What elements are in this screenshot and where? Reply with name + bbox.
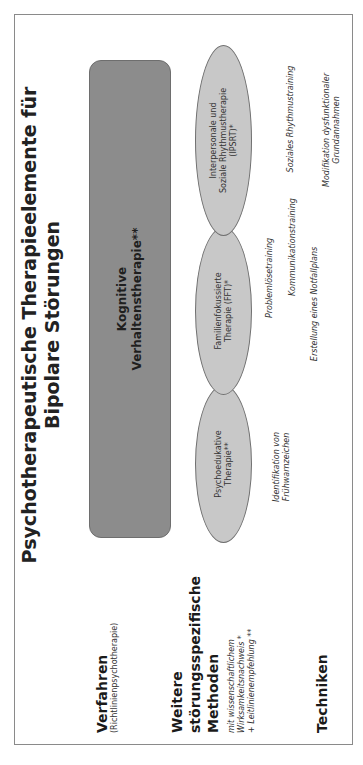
identifikation-line-2: Frühwarnzeichen (282, 432, 292, 502)
method-ellipse-fft: Familienfokussierte Therapie (FFT)* (195, 227, 252, 395)
row-sublabel-methoden: mit wissenschaftlichem Wirksamkeitsnachw… (227, 533, 257, 733)
kvt-label: Kognitive Verhaltenstherapie** (115, 228, 145, 371)
fft-line-2: Therapie (FFT)* (224, 272, 234, 349)
ipsrt-line-1: Interpersonale und (209, 88, 219, 193)
problemloese-line-1: Problemlösetraining (265, 238, 275, 318)
fft-line-1: Familienfokussierte (214, 272, 224, 349)
method-ellipse-psychoedukative: Psychoedukative Therapie** (195, 385, 252, 543)
technique-kommunikationstraining: Kommunikationstraining (288, 198, 298, 296)
kvt-line-1: Kognitive (115, 228, 130, 371)
modifikation-line-1: Modifikation dysfunktionaler (322, 73, 332, 187)
ipsrt-label: Interpersonale und Soziale Rhythmusthera… (209, 88, 239, 193)
technique-soziales-rhythmustraining: Soziales Rhythmustraining (286, 66, 296, 173)
diagram-title: Psychotherapeutische Therapieelemente fü… (18, 15, 64, 635)
fft-label: Familienfokussierte Therapie (FFT)* (214, 272, 234, 349)
notfallplan-line-1: Erstellung eines Notfallplans (310, 247, 320, 361)
ipsrt-line-2: Soziale Rhythmustherapie (219, 88, 229, 193)
technique-problemloesetraining: Problemlösetraining (265, 238, 275, 318)
methoden-line-1: Weitere (168, 533, 186, 733)
psychoedukative-label: Psychoedukative Therapie** (214, 430, 234, 497)
title-line-2: Bipolare Störungen (41, 15, 64, 635)
row-sublabel-verfahren: (Richtlinienpsychotherapie) (110, 623, 120, 733)
row-label-verfahren: Verfahren (94, 655, 110, 733)
rotated-diagram-canvas: Psychotherapeutische Therapieelemente fü… (0, 0, 363, 765)
title-line-1: Psychotherapeutische Therapieelemente fü… (18, 15, 41, 635)
method-ellipse-ipsrt: Interpersonale und Soziale Rhythmusthera… (195, 45, 252, 236)
sozialrhythmus-line-1: Soziales Rhythmustraining (286, 66, 296, 173)
identifikation-line-1: Identifikation von (272, 432, 282, 502)
methoden-sub-line-2: Wirksamkeitsnachweis * (237, 533, 247, 733)
technique-modifikation: Modifikation dysfunktionaler Grundannahm… (322, 73, 342, 187)
psycho-line-1: Psychoedukative (214, 430, 224, 497)
ipsrt-line-3: (IPSRT)* (229, 88, 239, 193)
row-label-techniken: Techniken (313, 654, 331, 733)
row-label-methoden: Weitere störungsspezifische Methoden (168, 533, 222, 733)
methoden-line-2: störungsspezifische (186, 533, 204, 733)
methoden-sub-line-3: + Leitlinienempfehlung ** (247, 533, 257, 733)
methoden-line-3: Methoden (204, 533, 222, 733)
psycho-line-2: Therapie** (224, 430, 234, 497)
kvt-line-2: Verhaltenstherapie** (130, 228, 145, 371)
verfahren-box-kvt: Kognitive Verhaltenstherapie** (89, 60, 171, 538)
kommunikation-line-1: Kommunikationstraining (288, 198, 298, 296)
technique-notfallplan: Erstellung eines Notfallplans (310, 247, 320, 361)
technique-identifikation: Identifikation von Frühwarnzeichen (272, 432, 292, 502)
modifikation-line-2: Grundannahmen (332, 73, 342, 187)
methoden-sub-line-1: mit wissenschaftlichem (227, 533, 237, 733)
